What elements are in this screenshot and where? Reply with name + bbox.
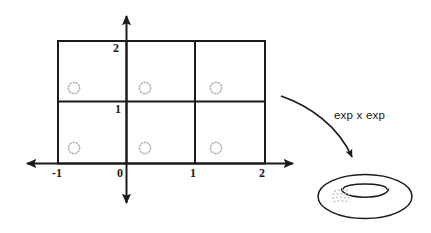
exp-map-label: exp x exp xyxy=(334,110,385,122)
y-axis-tick-1: 1 xyxy=(115,103,121,115)
diagram-canvas: 2 1 -1 0 1 2 exp x exp xyxy=(0,0,431,233)
dotted-circle-cell-2-3 xyxy=(210,142,221,153)
cell-markers xyxy=(68,82,221,153)
dotted-circle-cell-1-2 xyxy=(139,82,150,93)
torus-figure xyxy=(318,175,412,219)
exp-map-curved-arrow xyxy=(281,96,352,157)
dotted-circle-cell-2-2 xyxy=(139,142,150,153)
dotted-circle-cell-1-3 xyxy=(210,82,221,93)
fundamental-domain-grid xyxy=(58,41,265,164)
y-axis-tick-2: 2 xyxy=(113,42,119,54)
x-axis-tick-1: 1 xyxy=(190,167,196,179)
x-axis-tick-minus1: -1 xyxy=(52,167,62,179)
dotted-circle-cell-1-1 xyxy=(68,82,79,93)
dotted-circle-cell-2-1 xyxy=(68,142,79,153)
x-axis-tick-2: 2 xyxy=(259,167,265,179)
x-axis-tick-0: 0 xyxy=(117,167,123,179)
